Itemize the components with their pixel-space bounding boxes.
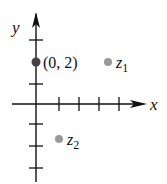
complex-plane-diagram: y x (0, 2) z1 z2: [0, 0, 167, 184]
point-0-2: [32, 58, 41, 67]
point-z2-label: z2: [66, 131, 79, 152]
y-axis-label: y: [10, 18, 20, 37]
point-z1-label: z1: [115, 54, 128, 75]
point-0-2-label: (0, 2): [43, 54, 78, 72]
x-axis-label: x: [149, 95, 158, 114]
point-z1: [104, 58, 112, 66]
point-z2: [55, 135, 63, 143]
